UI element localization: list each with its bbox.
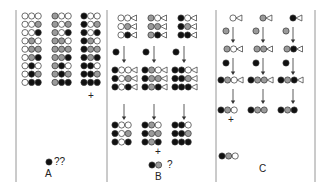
gray-bead (59, 54, 65, 60)
diagram: +??A+?B+C (0, 0, 331, 189)
white-bead (22, 79, 28, 85)
gray-bead (88, 54, 94, 60)
gray-bead (29, 46, 35, 52)
black-bead (172, 67, 178, 73)
final-chain (278, 107, 297, 113)
gray-bead (223, 28, 229, 34)
gray-bead (253, 28, 259, 34)
gray-bead (255, 77, 261, 83)
combination-row (81, 13, 100, 19)
end-cap-triangle (266, 15, 272, 21)
extended-chain (142, 67, 167, 73)
gray-bead (52, 79, 58, 85)
gray-bead (149, 139, 155, 145)
white-bead (22, 63, 28, 69)
initial-chain (178, 23, 197, 29)
final-chain (112, 130, 131, 136)
black-bead (185, 139, 191, 145)
combination-column (22, 13, 41, 86)
black-bead (178, 32, 184, 38)
combination-row (22, 71, 41, 77)
panel-b: +?B (112, 15, 197, 182)
down-arrow-icon (122, 104, 126, 120)
down-arrow-icon (261, 89, 265, 104)
down-arrow-icon (291, 27, 295, 43)
black-bead (278, 77, 284, 83)
final-chain (218, 107, 237, 113)
black-bead (88, 79, 94, 85)
gray-bead (35, 46, 41, 52)
black-bead (59, 71, 65, 77)
black-bead (88, 71, 94, 77)
black-bead (81, 38, 87, 44)
white-bead (22, 54, 28, 60)
black-bead (179, 67, 185, 73)
down-arrow-icon (231, 89, 235, 104)
black-bead (112, 67, 118, 73)
final-chain (142, 130, 161, 136)
combination-column (52, 13, 71, 86)
black-bead (172, 130, 178, 136)
gray-bead (224, 46, 230, 52)
white-bead (118, 32, 124, 38)
black-bead (81, 29, 87, 35)
extended-chain (172, 75, 197, 81)
down-arrow-icon (182, 104, 186, 120)
combination-row (81, 38, 100, 44)
extended-chain (172, 67, 197, 73)
extended-chain (142, 84, 167, 90)
gray-bead (52, 46, 58, 52)
white-bead (119, 130, 125, 136)
end-cap-triangle (131, 67, 137, 73)
panel-label-a: A (45, 168, 52, 179)
result-annotation: ?? (54, 156, 66, 167)
end-cap-triangle (131, 15, 137, 21)
final-chain (172, 130, 191, 136)
down-arrow-icon (261, 27, 265, 43)
black-bead (112, 130, 118, 136)
end-cap-triangle (237, 77, 243, 83)
white-bead (22, 38, 28, 44)
combination-row (52, 46, 71, 52)
down-arrow-icon (152, 104, 156, 120)
end-cap-triangle (131, 76, 137, 82)
black-bead (35, 79, 41, 85)
black-bead (94, 79, 100, 85)
column (278, 15, 303, 113)
black-bead (278, 107, 284, 113)
black-bead (172, 75, 178, 81)
black-bead (179, 84, 185, 90)
white-bead (119, 84, 125, 90)
final-chain (172, 122, 191, 128)
black-bead (65, 29, 71, 35)
black-bead (142, 122, 148, 128)
white-bead (59, 29, 65, 35)
gray-bead (65, 21, 71, 27)
white-bead (118, 15, 124, 21)
panel-c: +C (218, 15, 303, 174)
black-bead (172, 139, 178, 145)
black-bead (81, 54, 87, 60)
black-bead (59, 79, 65, 85)
white-bead (35, 38, 41, 44)
black-bead (94, 29, 100, 35)
white-bead (125, 122, 131, 128)
black-bead (172, 122, 178, 128)
black-bead (94, 54, 100, 60)
end-cap-triangle (191, 15, 197, 21)
gray-bead (149, 122, 155, 128)
initial-chain (148, 23, 167, 29)
black-bead (81, 71, 87, 77)
end-cap-triangle (161, 67, 167, 73)
final-chain (112, 122, 131, 128)
gray-bead (225, 107, 231, 113)
extended-chain (112, 84, 137, 90)
white-bead (185, 122, 191, 128)
white-bead (65, 38, 71, 44)
black-bead (219, 153, 225, 159)
black-bead (218, 77, 224, 83)
black-bead (29, 63, 35, 69)
gray-bead (185, 130, 191, 136)
step2-chain (224, 46, 243, 52)
down-arrow-icon (291, 89, 295, 104)
